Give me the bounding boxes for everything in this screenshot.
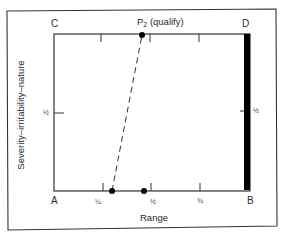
- outer-frame: [7, 9, 277, 230]
- corner-label-d: D: [242, 19, 249, 29]
- point-label-p2: P2 (qualify): [137, 17, 184, 28]
- corner-label-c: C: [51, 19, 58, 29]
- right-tick-label-half: ½: [253, 107, 259, 114]
- point-bottom-start: [109, 188, 115, 194]
- point-p2: [139, 32, 145, 38]
- diagram-canvas: [0, 0, 283, 238]
- y-axis-title: Severity–irritability–nature: [15, 60, 26, 169]
- x-tick-label-half: ½: [150, 198, 156, 205]
- diagram-figure: C D A B P2 (qualify) ¼ ½ ¾ Range ½ ½ Sev…: [0, 0, 283, 238]
- x-axis-title: Range: [140, 213, 168, 223]
- black-bar: [244, 34, 250, 190]
- corner-label-b: B: [247, 196, 254, 206]
- x-tick-label-three-quarter: ¾: [197, 197, 203, 204]
- plot-box: [54, 34, 250, 191]
- point-bottom-mid: [141, 188, 147, 194]
- corner-label-a: A: [51, 196, 58, 206]
- x-tick-label-quarter: ¼: [95, 198, 101, 205]
- point-label-suffix: (qualify): [147, 16, 183, 27]
- y-tick-label-half: ½: [43, 109, 49, 116]
- dashed-line: [112, 35, 142, 191]
